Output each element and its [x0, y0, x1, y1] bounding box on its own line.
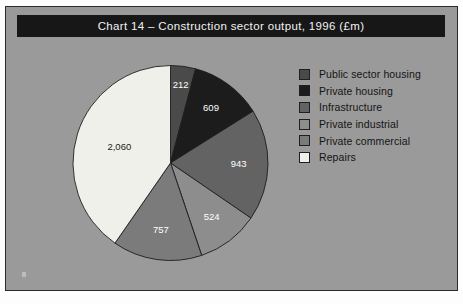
legend-item-label: Private industrial [319, 118, 398, 130]
footer-artifact [8, 296, 208, 303]
legend-swatch-icon [299, 119, 310, 130]
legend-swatch-icon [299, 85, 310, 96]
page-title: Chart 14 – Construction sector output, 1… [98, 20, 365, 32]
legend-item[interactable]: Private industrial [299, 116, 451, 133]
legend-item-label: Public sector housing [319, 68, 421, 80]
legend-swatch-icon [299, 135, 310, 146]
legend-item[interactable]: Repairs [299, 149, 451, 166]
chart-legend: Public sector housingPrivate housingInfr… [299, 66, 451, 166]
legend-swatch-icon [299, 69, 310, 80]
legend-swatch-icon [299, 152, 310, 163]
page-mark [22, 272, 26, 277]
legend-item-label: Private commercial [319, 135, 410, 147]
legend-item-label: Private housing [319, 85, 393, 97]
legend-item[interactable]: Infrastructure [299, 99, 451, 116]
legend-item[interactable]: Private commercial [299, 132, 451, 149]
legend-item-label: Repairs [319, 151, 356, 163]
legend-swatch-icon [299, 102, 310, 113]
chart-page: Chart 14 – Construction sector output, 1… [0, 0, 463, 304]
legend-item-label: Infrastructure [319, 101, 382, 113]
legend-item[interactable]: Public sector housing [299, 66, 451, 83]
chart-title-bar: Chart 14 – Construction sector output, 1… [17, 15, 445, 37]
legend-item[interactable]: Private housing [299, 83, 451, 100]
